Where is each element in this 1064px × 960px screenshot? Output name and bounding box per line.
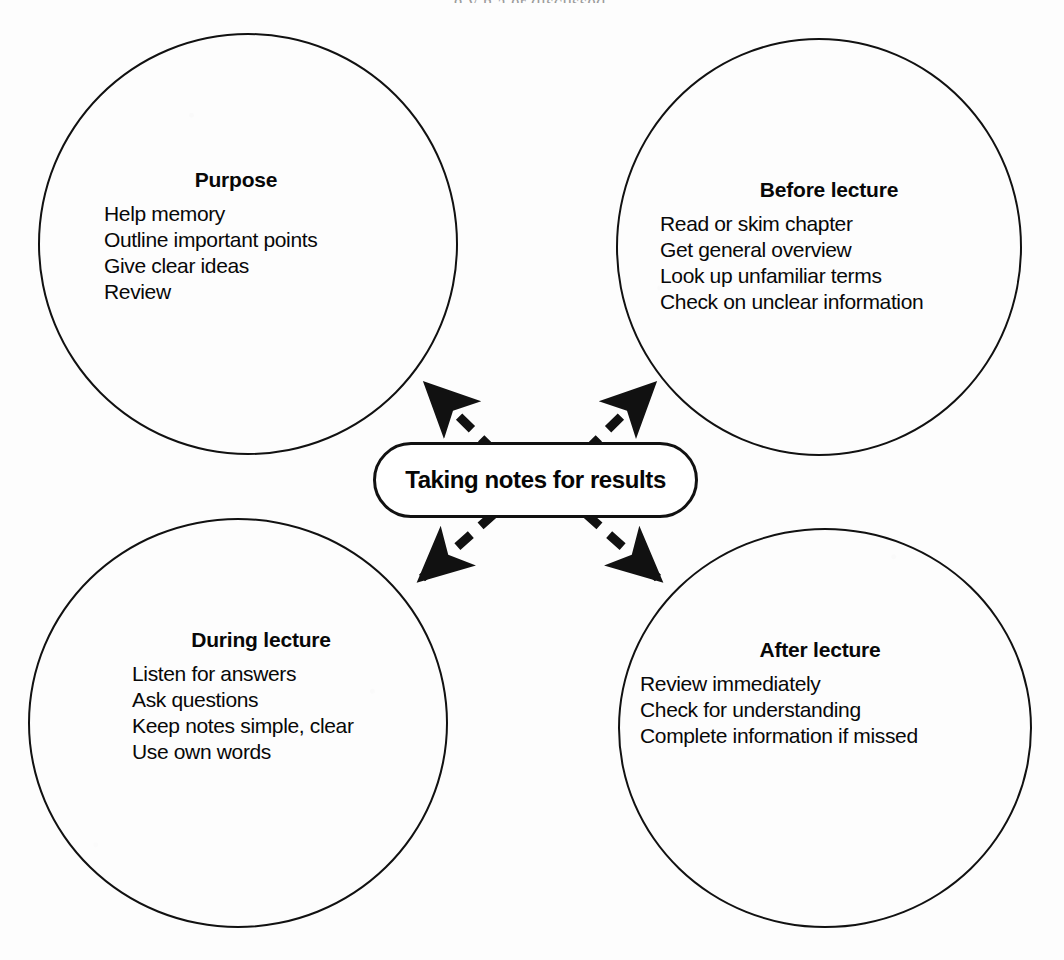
connector-center-to-after-lecture xyxy=(586,514,658,578)
center-node-label: Taking notes for results xyxy=(405,466,666,494)
diagram-canvas: g y h a er discussed. xyxy=(0,0,1064,960)
connector-center-to-during-lecture xyxy=(422,514,494,578)
center-node-capsule[interactable]: Taking notes for results xyxy=(373,442,698,518)
